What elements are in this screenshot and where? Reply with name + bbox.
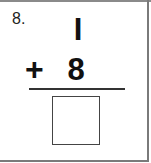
bottom-border [0,160,149,162]
plus-operator: + [25,52,44,86]
right-border [147,0,149,162]
top-border [0,0,151,2]
top-operand: I [63,14,93,46]
bottom-operand: 8 [63,53,89,87]
sum-line [29,88,125,90]
answer-box[interactable] [52,96,100,145]
problem-number: 8. [12,10,25,28]
